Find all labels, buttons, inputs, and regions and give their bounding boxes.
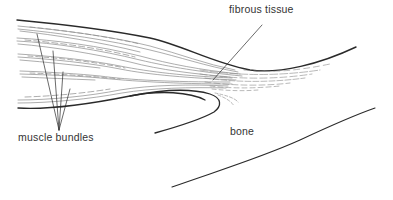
bone-upper-contour xyxy=(130,90,220,133)
leader-lines-muscle-bundles xyxy=(37,34,70,130)
muscle-bundle-4 xyxy=(20,71,232,84)
muscle-bundle-1 xyxy=(18,26,238,72)
muscle-tendon-bone-diagram: fibrous tissue muscle bundles bone xyxy=(0,0,393,200)
muscle-upper-contour xyxy=(17,20,356,71)
diagram-drawing xyxy=(0,0,393,200)
label-fibrous-tissue: fibrous tissue xyxy=(229,3,294,15)
label-bone: bone xyxy=(230,125,254,137)
muscle-bundle-3 xyxy=(18,54,236,80)
bone-lower-contour xyxy=(172,108,375,187)
label-muscle-bundles: muscle bundles xyxy=(18,131,94,143)
